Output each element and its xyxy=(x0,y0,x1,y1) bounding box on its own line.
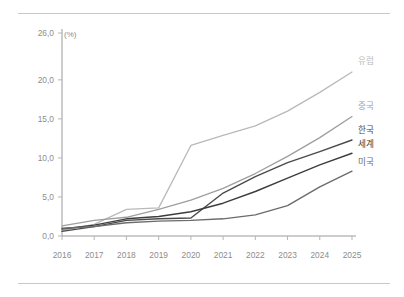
x-axis-tick-label: 2018 xyxy=(117,250,136,260)
x-axis-tick-label: 2024 xyxy=(310,250,329,260)
y-axis-tick-label: 15,0 xyxy=(38,114,55,124)
series-label: 유럽 xyxy=(358,56,374,66)
series-line xyxy=(62,72,352,230)
line-chart-plot: 0,05,010,015,020,026,0 20162017201820192… xyxy=(0,0,404,297)
y-axis-tick-label: 20,0 xyxy=(38,75,55,85)
x-axis-tick-label: 2022 xyxy=(246,250,265,260)
y-axis-tick-label: 5,0 xyxy=(42,192,54,202)
series-lines xyxy=(62,72,352,231)
chart-figure: 0,05,010,015,020,026,0 20162017201820192… xyxy=(0,0,404,297)
x-axis-tick-label: 2023 xyxy=(278,250,297,260)
x-axis-tick-label: 2025 xyxy=(343,250,362,260)
x-axis-tick-label: 2021 xyxy=(214,250,233,260)
series-label: 세계 xyxy=(358,138,374,149)
x-axis: 2016201720182019202020212022202320242025 xyxy=(53,236,362,260)
y-axis-tick-label: 10,0 xyxy=(38,153,55,163)
x-axis-tick-label: 2020 xyxy=(182,250,201,260)
series-labels: 유럽중국한국세계미국 xyxy=(358,56,374,167)
x-axis-tick-label: 2017 xyxy=(85,250,104,260)
series-line xyxy=(62,153,352,229)
series-line xyxy=(62,117,352,226)
series-label: 중국 xyxy=(358,101,374,111)
y-axis-tick-label: 0,0 xyxy=(42,231,54,241)
x-axis-tick-label: 2016 xyxy=(53,250,72,260)
y-axis-tick-label: 26,0 xyxy=(38,28,55,38)
x-axis-tick-label: 2019 xyxy=(149,250,168,260)
y-axis: 0,05,010,015,020,026,0 xyxy=(38,28,62,241)
series-label: 한국 xyxy=(358,125,374,135)
series-line xyxy=(62,140,352,231)
series-label: 미국 xyxy=(358,157,374,167)
y-axis-unit-label: (%) xyxy=(64,30,77,39)
